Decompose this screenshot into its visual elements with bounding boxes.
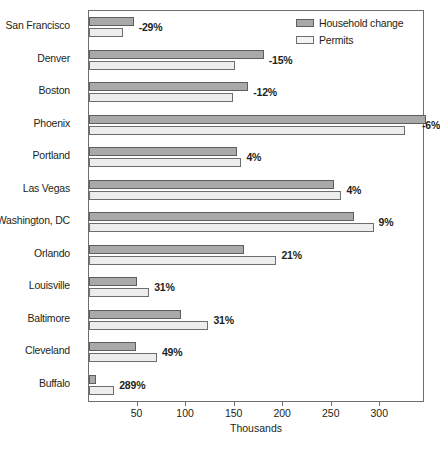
category-label: Orlando	[0, 247, 70, 259]
bar-household-change	[89, 17, 134, 26]
bar-permits	[89, 28, 123, 37]
value-label: 31%	[213, 314, 233, 326]
bar-household-change	[89, 180, 334, 189]
category-label: Phoenix	[0, 117, 70, 129]
x-axis-tick-label: 100	[176, 407, 194, 419]
x-axis-tick-label: 250	[322, 407, 340, 419]
permits-swatch-icon	[296, 36, 314, 44]
value-label: 9%	[379, 216, 394, 228]
bar-permits	[89, 353, 157, 362]
bar-household-change	[89, 375, 96, 384]
bar-household-change	[89, 212, 354, 221]
legend-label-permits: Permits	[319, 34, 353, 46]
value-label: 4%	[346, 184, 361, 196]
x-axis-tick-label: 150	[225, 407, 243, 419]
chart-row: Orlando21%	[89, 245, 424, 267]
category-label: Las Vegas	[0, 182, 70, 194]
category-label: Buffalo	[0, 377, 70, 389]
bar-household-change	[89, 115, 426, 124]
chart-row: Washington, DC9%	[89, 212, 424, 234]
value-label: 49%	[162, 346, 182, 358]
bar-permits	[89, 386, 114, 395]
chart-row: Baltimore31%	[89, 310, 424, 332]
category-label: Cleveland	[0, 344, 70, 356]
x-axis-tick-label: 200	[273, 407, 291, 419]
chart-row: Las Vegas4%	[89, 180, 424, 202]
x-axis-tick	[137, 402, 138, 406]
chart-row: Portland4%	[89, 147, 424, 169]
x-axis-tick	[185, 402, 186, 406]
value-label: -29%	[139, 21, 163, 33]
chart-row: Louisville31%	[89, 277, 424, 299]
legend-item-permits: Permits	[296, 33, 403, 47]
chart-legend: Household change Permits	[296, 16, 403, 50]
bar-household-change	[89, 342, 136, 351]
category-label: Boston	[0, 84, 70, 96]
value-label: 289%	[119, 379, 145, 391]
chart-row: Buffalo289%	[89, 375, 424, 397]
household-swatch-icon	[296, 19, 314, 27]
value-label: 31%	[154, 281, 174, 293]
x-axis-tick	[234, 402, 235, 406]
bar-permits	[89, 61, 235, 70]
value-label: -12%	[253, 86, 277, 98]
value-label: -6%	[422, 119, 440, 131]
chart-row: Denver-15%	[89, 50, 424, 72]
bar-household-change	[89, 82, 248, 91]
bar-household-change	[89, 147, 237, 156]
x-axis-tick	[282, 402, 283, 406]
x-axis-tick	[379, 402, 380, 406]
category-label: Denver	[0, 52, 70, 64]
bar-household-change	[89, 245, 244, 254]
bar-household-change	[89, 310, 181, 319]
chart-row: Phoenix-6%	[89, 115, 424, 137]
value-label: 21%	[281, 249, 301, 261]
category-label: Louisville	[0, 279, 70, 291]
x-axis-tick	[331, 402, 332, 406]
bar-permits	[89, 321, 208, 330]
value-label: 4%	[246, 151, 261, 163]
category-label: San Francisco	[0, 19, 70, 31]
bar-permits	[89, 158, 241, 167]
bar-permits	[89, 256, 276, 265]
legend-item-household-change: Household change	[296, 16, 403, 30]
chart-rows: San Francisco-29%Denver-15%Boston-12%Pho…	[89, 11, 424, 401]
bar-household-change	[89, 50, 264, 59]
x-axis-tick-label: 50	[131, 407, 143, 419]
category-label: Baltimore	[0, 312, 70, 324]
bar-permits	[89, 191, 341, 200]
x-axis-title: Thousands	[88, 422, 424, 434]
bar-permits	[89, 223, 374, 232]
value-label: -15%	[269, 54, 293, 66]
bar-permits	[89, 288, 149, 297]
bar-permits	[89, 93, 233, 102]
x-axis-tick-label: 300	[371, 407, 389, 419]
legend-label-household-change: Household change	[319, 17, 403, 29]
chart-row: Boston-12%	[89, 82, 424, 104]
category-label: Portland	[0, 149, 70, 161]
category-label: Washington, DC	[0, 214, 70, 226]
bar-household-change	[89, 277, 137, 286]
bar-permits	[89, 126, 405, 135]
chart-row: Cleveland49%	[89, 342, 424, 364]
